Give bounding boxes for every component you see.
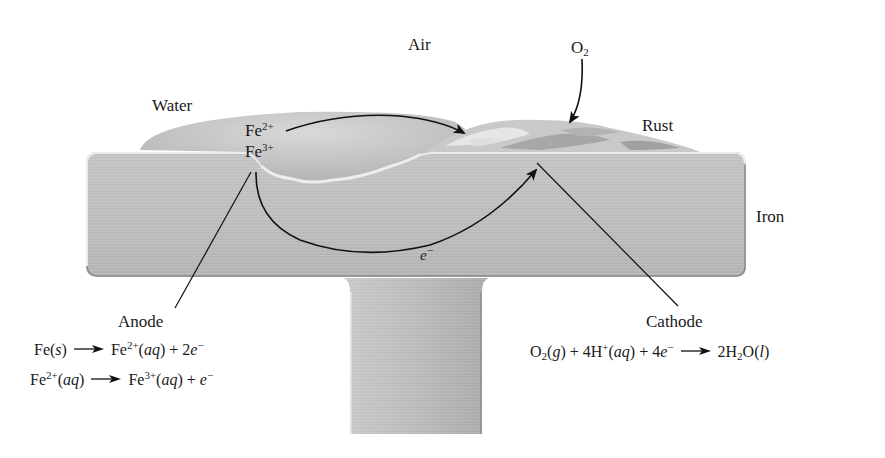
anode-equation-2: Fe2+(aq) Fe3+(aq) + e−: [30, 372, 213, 388]
rust-label: Rust: [642, 117, 673, 134]
o2-label: O2: [571, 39, 589, 56]
cathode-label: Cathode: [646, 313, 703, 330]
fe2-ion-label: Fe2+: [245, 122, 274, 139]
anode-equation-1: Fe(s) Fe2+(aq) + 2e−: [34, 342, 204, 358]
reaction-arrow-icon: [681, 346, 711, 356]
iron-label: Iron: [756, 208, 784, 225]
fe3-ion-label: Fe3+: [245, 143, 274, 160]
reaction-arrow-icon: [91, 374, 121, 384]
anode-label: Anode: [118, 313, 163, 330]
cathode-equation: O2(g) + 4H+(aq) + 4e− 2H2O(l): [530, 344, 769, 360]
iron-block: [86, 152, 746, 277]
water-label: Water: [152, 97, 192, 114]
reaction-arrow-icon: [74, 344, 104, 354]
rusting-diagram: [0, 0, 885, 458]
iron-stem: [343, 278, 489, 434]
oxygen-arrow: [570, 59, 582, 122]
air-label: Air: [408, 36, 431, 53]
electron-label: e−: [420, 248, 434, 263]
